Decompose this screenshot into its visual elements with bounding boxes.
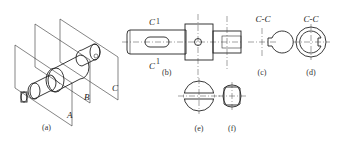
caption-c: (c): [258, 68, 267, 77]
title-d: C-C: [303, 14, 319, 24]
section-subscript-bottom: 1: [156, 57, 160, 66]
plane-label-a: A: [66, 110, 73, 120]
plane-label-c: C: [112, 83, 119, 93]
caption-e: (e): [195, 124, 204, 133]
caption-d: (d): [306, 68, 316, 77]
title-c: C-C: [255, 14, 271, 24]
plane-label-b: B: [84, 92, 90, 102]
caption-a: (a): [42, 123, 51, 132]
panel-c: C-C (c): [248, 14, 293, 77]
panel-b: C C 1 1 (b): [122, 14, 242, 78]
panel-d: C-C (d): [293, 14, 330, 77]
panel-e: (e): [178, 78, 220, 133]
panel-f: (f): [218, 82, 248, 133]
section-label-bottom: C: [149, 61, 156, 71]
caption-b: (b): [162, 68, 172, 77]
technical-drawing: A B C (a) C C 1 1 (b) C-C (c) C-C: [0, 0, 341, 144]
section-subscript-top: 1: [156, 17, 160, 26]
panel-a: A B C (a): [15, 19, 119, 132]
caption-f: (f): [228, 124, 236, 133]
section-label-top: C: [149, 17, 156, 27]
